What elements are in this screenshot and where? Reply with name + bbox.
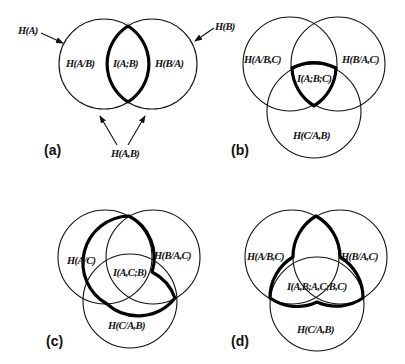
arrow-icon: [41, 33, 63, 43]
region-label-b-bottom: H(C/A,B): [292, 130, 330, 142]
triple-intersection-region: [292, 63, 336, 106]
arrow-icon: [128, 116, 145, 145]
arrow-icon: [100, 116, 117, 145]
annotation-h-ab: H(A,B): [110, 148, 139, 160]
region-label-d-center: I(A,B;A,C;B,C): [286, 281, 347, 293]
region-label-c-right: H(B/A,C): [153, 250, 191, 262]
region-label-d-left: H(A/B,C): [246, 251, 284, 263]
region-label-a-right: H(B/A): [154, 58, 184, 70]
region-label-d-bottom: H(C/A,B): [296, 324, 334, 336]
region-label-c-center: I(A,C;B): [112, 267, 147, 279]
annotation-h-a: H(A): [17, 25, 38, 37]
arrow-icon: [195, 28, 214, 41]
region-label-d-right: H(B/A,C): [340, 251, 378, 263]
panel-label-b: (b): [231, 142, 249, 158]
panel-c: H(A/C) H(B/A,C) I(A,C;B) H(C/A,B) (c): [46, 210, 200, 349]
region-label-a-left: H(A/B): [65, 58, 95, 70]
panel-label-c: (c): [46, 333, 63, 349]
region-label-c-left: H(A/C): [66, 255, 96, 267]
annotation-h-b: H(B): [214, 21, 235, 33]
panel-b: H(A/B,C) H(B/A,C) I(A;B;C) H(C/A,B) (b): [231, 17, 385, 158]
panel-label-d: (d): [231, 333, 249, 349]
panel-a: H(A/B) I(A;B) H(B/A) H(A) H(B) H(A,B) (a…: [17, 19, 235, 160]
region-label-c-bottom: H(C/A,B): [107, 320, 145, 332]
region-label-b-right: H(B/A,C): [341, 54, 379, 66]
region-label-b-left: H(A/B,C): [243, 54, 281, 66]
region-label-a-center: I(A;B): [112, 58, 138, 70]
panel-d: H(A/B,C) H(B/A,C) I(A,B;A,C;B,C) H(C/A,B…: [231, 210, 387, 351]
information-venn-diagrams: H(A/B) I(A;B) H(B/A) H(A) H(B) H(A,B) (a…: [0, 0, 405, 364]
region-label-b-center: I(A;B;C): [296, 73, 331, 85]
panel-label-a: (a): [44, 142, 61, 158]
